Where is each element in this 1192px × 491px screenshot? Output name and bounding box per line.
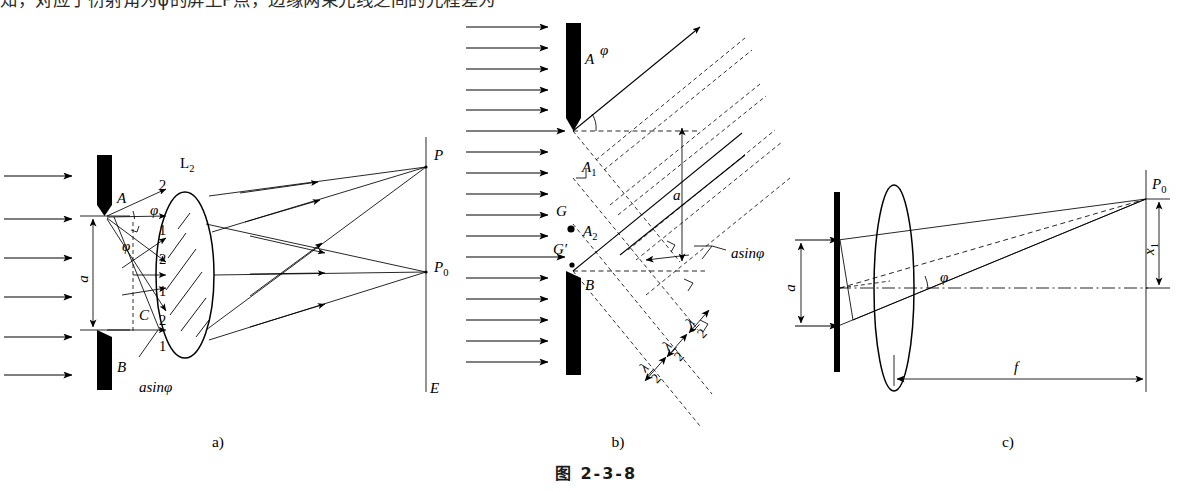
figure-number: 图 2-3-8 <box>0 459 1192 491</box>
label-a-point-A: A <box>116 190 127 206</box>
angle-arc-a <box>133 211 135 219</box>
label-c-angle-phi: φ <box>940 269 948 285</box>
label-b-zone-A2: A2 <box>582 223 597 242</box>
label-a-point-P: P <box>433 147 443 163</box>
slit-aperture-c <box>834 192 840 372</box>
figure-canvas: a <box>0 0 1192 491</box>
label-a-angle-phi-mid: φ <box>122 238 130 254</box>
label-c-slit-width: a <box>782 284 798 292</box>
incoming-wavefront-arrows-a <box>4 176 72 375</box>
label-a-point-P0: P0 <box>433 259 448 278</box>
figure-root: 知，对应于衍射角为φ的屏上P点，边缘两束光线之间的光程差为 <box>0 0 1192 491</box>
label-b-path-difference: asinφ <box>731 245 764 261</box>
caption-a: a) <box>212 433 224 451</box>
caption-b: b) <box>612 433 625 451</box>
beam-rays-c <box>838 199 1146 326</box>
label-a-point-C: C <box>139 307 150 323</box>
panel-b <box>466 23 790 426</box>
svg-text:2: 2 <box>159 177 166 193</box>
ray-number-labels-a: 2 1 2 1 2 1 <box>159 177 166 354</box>
wavefront-c <box>838 240 890 326</box>
rays-lens-to-screen-a <box>206 167 426 340</box>
svg-text:1: 1 <box>159 222 166 238</box>
label-a-screen-E: E <box>429 380 439 396</box>
diffracted-ray-bottom-b <box>573 133 742 271</box>
label-a-point-B: B <box>117 359 126 375</box>
label-b-point-G-prime: G′ <box>553 241 568 257</box>
label-b-point-B: B <box>585 277 594 293</box>
svg-text:2: 2 <box>671 349 687 364</box>
label-a-lens: L2 <box>180 155 194 174</box>
angle-arc-c <box>925 276 928 288</box>
point-G-prime-b <box>569 262 574 267</box>
svg-text:2: 2 <box>648 371 664 386</box>
label-a-angle-phi-top: φ <box>150 202 158 218</box>
panel-c: a <box>782 170 1170 392</box>
label-b-point-G: G <box>556 203 567 219</box>
incoming-arrows-c <box>795 240 838 326</box>
label-slit-width-a: a <box>75 275 91 283</box>
label-c-screen-position: x1 <box>1141 243 1160 256</box>
angle-arc-b <box>592 114 596 131</box>
label-b-slit-width: a <box>673 187 681 203</box>
leader-asinphi-a <box>139 330 158 357</box>
label-c-point-P0: P0 <box>1151 176 1166 195</box>
point-G-b <box>567 225 574 232</box>
path-fraction-labels-b: λ 2 λ 2 λ 2 <box>635 314 711 387</box>
label-a-path-difference: asinφ <box>139 379 172 395</box>
right-angle-ticks-b <box>576 169 708 332</box>
caption-c: c) <box>1002 433 1014 451</box>
svg-text:1: 1 <box>159 338 166 354</box>
svg-text:2: 2 <box>694 326 710 341</box>
diffracted-ray-top-b <box>573 27 700 131</box>
focal-length-dimension-c <box>894 355 1143 386</box>
label-b-point-A: A <box>584 51 595 67</box>
panel-a: a <box>4 137 428 392</box>
label-c-focal-length: f <box>1014 359 1020 375</box>
label-b-angle-phi: φ <box>600 42 608 58</box>
slit-aperture-b <box>566 23 581 375</box>
svg-text:2: 2 <box>159 312 166 328</box>
path-fraction-markers-b <box>645 310 709 381</box>
label-b-zone-A1: A1 <box>581 159 596 178</box>
path-difference-indicator-b <box>646 246 726 260</box>
svg-text:1: 1 <box>159 283 166 299</box>
svg-text:2: 2 <box>159 251 166 267</box>
incoming-wavefront-arrows-b <box>466 27 565 362</box>
